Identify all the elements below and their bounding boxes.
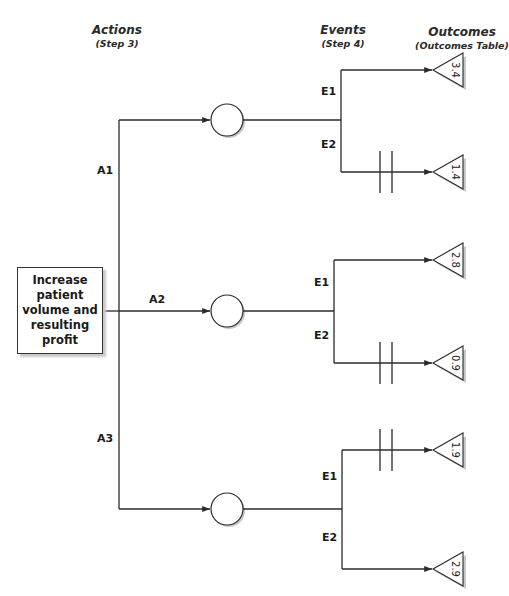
header-events-title: Events [313, 24, 373, 37]
event-label-e1: E1 [321, 85, 336, 98]
chance-node-icon [211, 104, 243, 136]
header-outcomes: Outcomes (Outcomes Table) [415, 26, 509, 52]
header-events-subtitle: (Step 4) [313, 37, 373, 50]
header-outcomes-subtitle: (Outcomes Table) [415, 39, 509, 52]
header-actions-subtitle: (Step 3) [82, 37, 152, 50]
outcome-value: 2.8 [450, 252, 461, 268]
header-outcomes-title: Outcomes [415, 26, 509, 39]
event-label-e2: E2 [322, 531, 337, 544]
event-label-e2: E2 [314, 329, 329, 342]
chance-node-icon [211, 295, 243, 327]
header-actions: Actions (Step 3) [82, 24, 152, 50]
outcome-value: 3.4 [450, 62, 461, 78]
header-events: Events (Step 4) [313, 24, 373, 50]
decision-root-label: Increase patient volume and resulting pr… [20, 273, 100, 348]
action-label-a3: A3 [97, 432, 113, 445]
event-label-e1: E1 [314, 276, 329, 289]
action-label-a1: A1 [97, 164, 113, 177]
event-label-e1: E1 [322, 470, 337, 483]
event-label-e2: E2 [321, 138, 336, 151]
outcome-value: 1.9 [450, 442, 461, 458]
outcome-value: 1.4 [450, 164, 461, 180]
decision-root-node: Increase patient volume and resulting pr… [17, 267, 103, 354]
outcome-value: 0.9 [450, 355, 461, 371]
outcome-value: 2.9 [450, 561, 461, 577]
header-actions-title: Actions [82, 24, 152, 37]
action-label-a2: A2 [149, 293, 165, 306]
chance-node-icon [211, 493, 243, 525]
